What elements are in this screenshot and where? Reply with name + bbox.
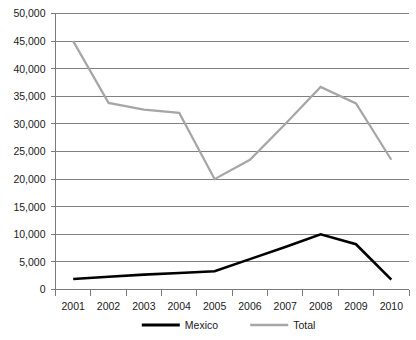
y-tick-label: 15,000 [13, 201, 45, 213]
x-tick-marks [56, 290, 410, 296]
y-tick-marks [51, 14, 56, 290]
x-tick-label: 2005 [203, 300, 227, 312]
x-tick-labels: 2001200220032004200520062007200820092010 [61, 300, 403, 312]
y-tick-label: 5,000 [19, 256, 45, 268]
gridlines-group [56, 14, 410, 290]
series-line-total [73, 41, 391, 179]
y-tick-label: 30,000 [13, 118, 45, 130]
y-tick-label: 25,000 [13, 145, 45, 157]
legend-label-total: Total [293, 319, 315, 331]
clipped-title-artifact [10, 0, 340, 3]
x-tick-label: 2001 [61, 300, 85, 312]
chart-legend: MexicoTotal [142, 319, 316, 331]
y-tick-labels: 05,00010,00015,00020,00025,00030,00035,0… [13, 7, 45, 295]
series-line-mexico [73, 234, 391, 279]
y-tick-label: 20,000 [13, 173, 45, 185]
data-series-group [73, 41, 391, 279]
y-tick-label: 35,000 [13, 90, 45, 102]
x-tick-label: 2002 [97, 300, 121, 312]
y-tick-label: 40,000 [13, 63, 45, 75]
y-tick-label: 0 [40, 283, 46, 295]
legend-label-mexico: Mexico [185, 319, 218, 331]
y-tick-label: 10,000 [13, 228, 45, 240]
line-chart: 05,00010,00015,00020,00025,00030,00035,0… [0, 0, 416, 340]
x-tick-label: 2004 [168, 300, 192, 312]
x-tick-label: 2008 [309, 300, 333, 312]
y-tick-label: 50,000 [13, 7, 45, 19]
x-tick-label: 2003 [132, 300, 156, 312]
chart-canvas: 05,00010,00015,00020,00025,00030,00035,0… [0, 0, 416, 340]
x-tick-label: 2006 [238, 300, 262, 312]
y-tick-label: 45,000 [13, 35, 45, 47]
x-tick-label: 2009 [344, 300, 368, 312]
x-tick-label: 2007 [274, 300, 298, 312]
x-tick-label: 2010 [380, 300, 404, 312]
